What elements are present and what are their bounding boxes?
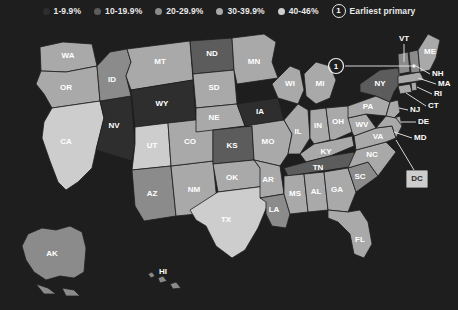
state-label-IL: IL bbox=[294, 127, 301, 136]
earliest-primary-marker-icon: 1 bbox=[332, 4, 346, 18]
state-label-LA: LA bbox=[269, 205, 280, 214]
state-label-HI: HI bbox=[159, 267, 167, 276]
legend-label: 1-9.9% bbox=[54, 7, 82, 16]
state-label-WI: WI bbox=[285, 79, 295, 88]
leader-line-MA bbox=[418, 78, 436, 84]
state-label-ID: ID bbox=[108, 75, 116, 84]
state-label-ME: ME bbox=[424, 47, 437, 56]
state-CT[interactable] bbox=[398, 84, 412, 94]
leader-line-RI bbox=[417, 87, 432, 94]
state-label-MI: MI bbox=[316, 79, 325, 88]
legend-swatch-icon bbox=[155, 8, 162, 15]
state-label-WY: WY bbox=[156, 99, 170, 108]
state-CA[interactable] bbox=[42, 101, 104, 190]
state-label-TN: TN bbox=[313, 163, 324, 172]
state-label-CT: CT bbox=[428, 101, 439, 110]
legend-label: 40-46% bbox=[289, 7, 319, 16]
state-label-KY: KY bbox=[320, 147, 332, 156]
legend-item-earliest-primary: 1 Earliest primary bbox=[332, 4, 416, 18]
state-label-PA: PA bbox=[363, 102, 374, 111]
state-label-UT: UT bbox=[147, 141, 158, 150]
state-label-AL: AL bbox=[311, 187, 322, 196]
us-choropleth-map: 1-9.9% 10-19.9% 20-29.9% 30-39.9% 40-46%… bbox=[0, 0, 458, 310]
state-label-NC: NC bbox=[366, 150, 378, 159]
state-label-MA: MA bbox=[438, 79, 451, 88]
legend-label: 20-29.9% bbox=[166, 7, 203, 16]
state-label-IA: IA bbox=[256, 107, 264, 116]
state-label-NV: NV bbox=[108, 121, 120, 130]
legend-item-2: 10-19.9% bbox=[94, 7, 142, 16]
state-label-NH: NH bbox=[432, 69, 444, 78]
state-label-KS: KS bbox=[226, 141, 238, 150]
state-label-FL: FL bbox=[355, 235, 365, 244]
legend-label: 10-19.9% bbox=[105, 7, 142, 16]
state-label-SD: SD bbox=[208, 83, 219, 92]
legend-label: Earliest primary bbox=[350, 7, 416, 16]
leader-line-CT bbox=[406, 93, 426, 106]
leader-line-NJ bbox=[399, 108, 408, 110]
state-label-OH: OH bbox=[332, 117, 344, 126]
legend-item-5: 40-46% bbox=[278, 7, 319, 16]
legend-item-4: 30-39.9% bbox=[216, 7, 264, 16]
legend-swatch-icon bbox=[216, 8, 223, 15]
legend-label: 30-39.9% bbox=[227, 7, 264, 16]
legend-swatch-icon bbox=[43, 8, 50, 15]
state-label-NM: NM bbox=[188, 185, 201, 194]
state-label-CO: CO bbox=[184, 137, 196, 146]
legend-swatch-icon bbox=[94, 8, 101, 15]
state-label-MD: MD bbox=[414, 133, 427, 142]
state-FL[interactable] bbox=[328, 210, 372, 258]
state-label-VA: VA bbox=[373, 132, 384, 141]
state-label-ND: ND bbox=[206, 49, 218, 58]
state-label-NJ: NJ bbox=[410, 105, 420, 114]
state-label-MT: MT bbox=[154, 57, 166, 66]
legend-swatch-icon bbox=[278, 8, 285, 15]
state-label-OR: OR bbox=[60, 83, 72, 92]
earliest-primary-endpoint bbox=[412, 64, 416, 68]
state-label-CA: CA bbox=[60, 137, 72, 146]
state-AK[interactable] bbox=[22, 226, 86, 296]
state-label-NY: NY bbox=[374, 79, 386, 88]
state-label-MO: MO bbox=[262, 137, 275, 146]
state-label-SC: SC bbox=[354, 172, 365, 181]
legend-item-1: 1-9.9% bbox=[43, 7, 82, 16]
state-label-AR: AR bbox=[262, 175, 274, 184]
map-canvas: 1 WA OR CA NV ID MT WY UT AZ NM CO ND SD… bbox=[0, 22, 458, 310]
state-label-TX: TX bbox=[221, 215, 232, 224]
leader-line-DC bbox=[396, 140, 414, 170]
state-label-AZ: AZ bbox=[147, 189, 158, 198]
state-label-WV: WV bbox=[356, 120, 370, 129]
legend-item-3: 20-29.9% bbox=[155, 7, 203, 16]
state-label-NE: NE bbox=[208, 113, 220, 122]
state-label-GA: GA bbox=[331, 185, 343, 194]
state-label-DC: DC bbox=[411, 174, 423, 183]
state-label-MS: MS bbox=[289, 189, 302, 198]
state-label-VT: VT bbox=[399, 34, 409, 43]
state-label-IN: IN bbox=[314, 121, 322, 130]
state-label-AK: AK bbox=[46, 249, 58, 258]
state-label-RI: RI bbox=[434, 89, 442, 98]
earliest-primary-callout-label: 1 bbox=[334, 62, 339, 71]
state-label-DE: DE bbox=[418, 117, 430, 126]
state-label-OK: OK bbox=[226, 173, 238, 182]
state-label-WA: WA bbox=[62, 51, 75, 60]
state-RI[interactable] bbox=[411, 82, 417, 91]
state-label-MN: MN bbox=[248, 57, 261, 66]
map-legend: 1-9.9% 10-19.9% 20-29.9% 30-39.9% 40-46%… bbox=[0, 0, 458, 22]
